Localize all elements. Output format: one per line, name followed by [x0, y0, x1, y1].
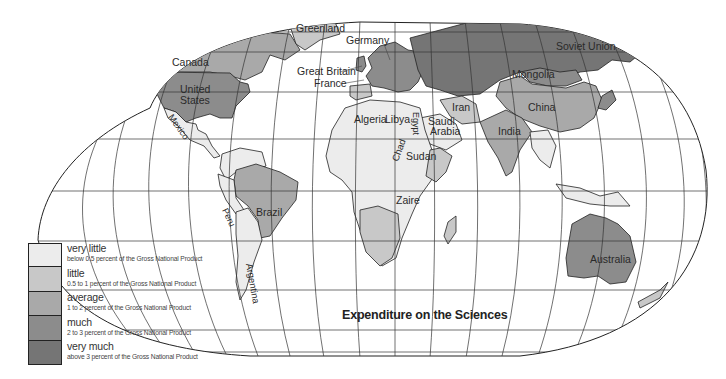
legend-item-very-little: very little below 0.5 percent of the Gro…	[28, 243, 238, 268]
label-arabia: Arabia	[430, 125, 461, 137]
legend-item-average: average 1 to 2 percent of the Gross Nati…	[28, 292, 238, 317]
legend-description: 1 to 2 percent of the Gross National Pro…	[67, 304, 191, 311]
label-mongolia: Mongolia	[512, 68, 555, 80]
label-france: France	[314, 77, 347, 89]
legend-description: above 3 percent of the Gross National Pr…	[67, 353, 198, 360]
label-germany: Germany	[346, 34, 390, 46]
legend-title: average	[67, 291, 104, 303]
label-algeria: Algeria	[354, 113, 387, 125]
legend-description: below 0.5 percent of the Gross National …	[67, 255, 202, 262]
label-great-britain: Great Britain	[297, 65, 356, 77]
label-brazil: Brazil	[256, 206, 282, 218]
label-zaire: Zaire	[396, 194, 420, 206]
label-australia: Australia	[590, 253, 631, 265]
legend-title: very much	[67, 340, 114, 352]
legend-swatch-much	[28, 315, 62, 340]
legend-swatch-very-little	[28, 243, 62, 267]
map-legend: very little below 0.5 percent of the Gro…	[28, 243, 238, 366]
label-states: States	[180, 94, 210, 106]
legend-title: very little	[67, 242, 106, 254]
legend-title: much	[67, 316, 92, 328]
label-iran: Iran	[452, 101, 470, 113]
legend-swatch-very-much	[28, 340, 62, 365]
legend-description: 0.5 to 1 percent of the Gross National P…	[67, 280, 196, 287]
legend-title: little	[67, 267, 84, 279]
label-egypt: Egypt	[411, 112, 421, 136]
world-map: Canada United States Mexico Greenland Ge…	[0, 0, 726, 379]
legend-item-little: little 0.5 to 1 percent of the Gross Nat…	[28, 268, 238, 293]
label-india: India	[498, 125, 521, 137]
legend-swatch-average	[28, 291, 62, 316]
map-title: Expenditure on the Sciences	[342, 308, 507, 322]
legend-item-very-much: very much above 3 percent of the Gross N…	[28, 341, 238, 366]
legend-description: 2 to 3 percent of the Gross National Pro…	[67, 329, 191, 336]
label-sudan: Sudan	[406, 150, 437, 162]
label-libya: Libya	[385, 113, 410, 125]
label-china: China	[528, 101, 556, 113]
label-soviet-union: Soviet Union	[556, 40, 616, 52]
legend-item-much: much 2 to 3 percent of the Gross Nationa…	[28, 317, 238, 342]
label-canada: Canada	[172, 56, 209, 68]
legend-swatch-little	[28, 266, 62, 291]
label-greenland: Greenland	[296, 22, 345, 34]
